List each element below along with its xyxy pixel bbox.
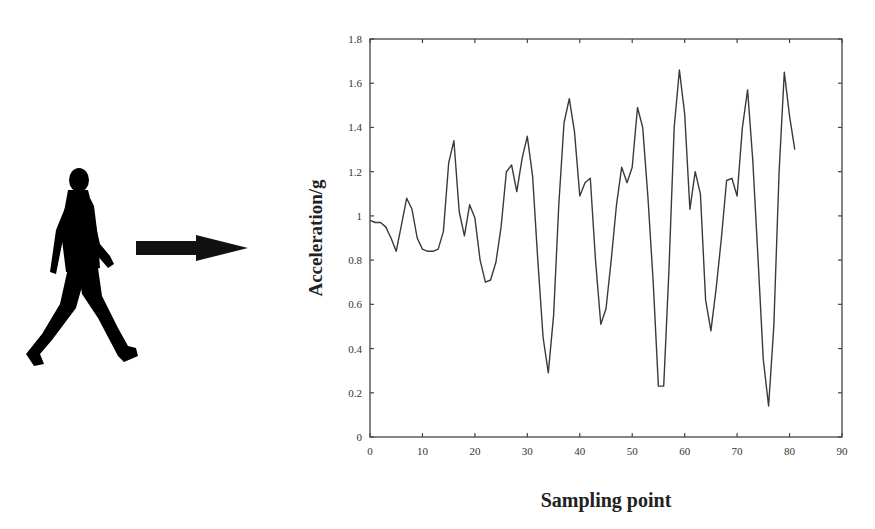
- x-axis-label: Sampling point: [541, 489, 672, 512]
- line-chart: 010203040506070809000.20.40.60.811.21.41…: [0, 0, 875, 529]
- y-tick-label: 0.4: [348, 343, 362, 355]
- y-tick-label: 0.2: [348, 387, 362, 399]
- y-tick-label: 0: [357, 431, 363, 443]
- y-axis-label: Acceleration/g: [305, 179, 327, 296]
- x-tick-label: 50: [627, 445, 639, 457]
- y-tick-label: 1.8: [348, 33, 362, 45]
- y-tick-label: 0.8: [348, 254, 362, 266]
- x-tick-label: 10: [417, 445, 429, 457]
- x-tick-label: 60: [679, 445, 691, 457]
- x-tick-label: 20: [469, 445, 481, 457]
- axes: 010203040506070809000.20.40.60.811.21.41…: [348, 33, 848, 457]
- y-tick-label: 0.6: [348, 298, 362, 310]
- y-tick-label: 1.4: [348, 121, 362, 133]
- y-tick-label: 1.2: [348, 166, 362, 178]
- figure: 010203040506070809000.20.40.60.811.21.41…: [0, 0, 875, 529]
- x-tick-label: 80: [784, 445, 796, 457]
- data-line: [370, 70, 795, 406]
- y-tick-label: 1: [357, 210, 363, 222]
- x-tick-label: 30: [522, 445, 534, 457]
- x-tick-label: 70: [732, 445, 744, 457]
- x-tick-label: 90: [837, 445, 849, 457]
- x-tick-label: 0: [367, 445, 373, 457]
- x-tick-label: 40: [574, 445, 586, 457]
- y-tick-label: 1.6: [348, 77, 362, 89]
